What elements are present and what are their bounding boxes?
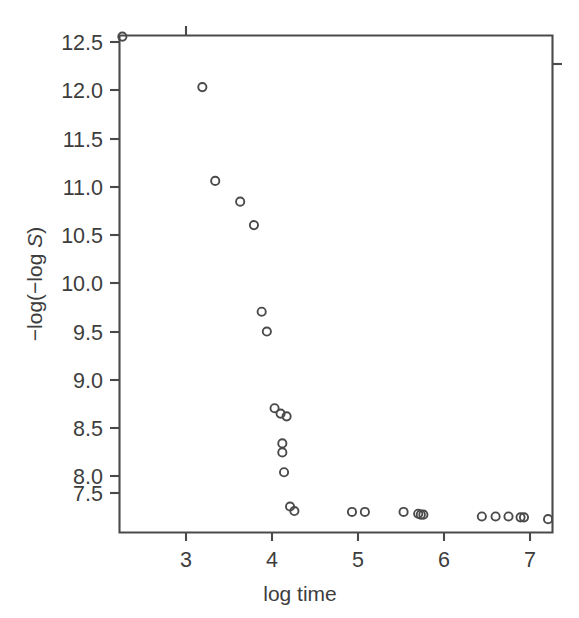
data-point bbox=[250, 221, 258, 229]
x-axis-tick-marks bbox=[186, 26, 562, 541]
y-tick-label: 9.0 bbox=[73, 369, 103, 393]
x-tick-label: 4 bbox=[266, 548, 278, 572]
y-tick-label: 11.0 bbox=[63, 176, 103, 200]
plot-canvas: 12.5 12.0 11.5 11.0 10.5 10.0 9.5 9.0 8.… bbox=[0, 0, 579, 618]
plot-frame bbox=[120, 36, 553, 533]
data-point bbox=[478, 512, 486, 520]
data-points-layer bbox=[118, 32, 552, 523]
y-tick-label: 10.5 bbox=[61, 224, 103, 248]
y-tick-label: 12.0 bbox=[61, 79, 103, 103]
data-point bbox=[544, 515, 552, 523]
data-point bbox=[278, 439, 286, 447]
y-axis-tick-labels: 12.5 12.0 11.5 11.0 10.5 10.0 9.5 9.0 8.… bbox=[61, 31, 103, 506]
data-point bbox=[492, 512, 500, 520]
y-axis-title: −log(−log S) bbox=[23, 227, 46, 341]
data-point bbox=[278, 448, 286, 456]
data-point bbox=[504, 512, 512, 520]
y-axis-title-suffix: ) bbox=[23, 227, 46, 234]
x-axis-title: log time bbox=[263, 582, 337, 605]
data-point bbox=[399, 508, 407, 516]
data-point bbox=[263, 327, 271, 335]
y-tick-label: 10.0 bbox=[61, 272, 103, 296]
scatter-plot-figure: 12.5 12.0 11.5 11.0 10.5 10.0 9.5 9.0 8.… bbox=[0, 0, 579, 618]
data-point bbox=[258, 308, 266, 316]
data-point bbox=[236, 198, 244, 206]
y-axis-title-italic-s: S bbox=[23, 234, 46, 248]
y-axis-title-prefix: −log(−log bbox=[23, 248, 46, 341]
y-axis-tick-marks bbox=[110, 42, 119, 493]
data-point bbox=[211, 177, 219, 185]
x-axis-tick-labels: 3 4 5 6 7 bbox=[180, 548, 536, 572]
x-tick-label: 5 bbox=[352, 548, 364, 572]
data-point bbox=[348, 508, 356, 516]
y-tick-label: 12.5 bbox=[61, 31, 103, 55]
x-tick-label: 6 bbox=[438, 548, 450, 572]
y-tick-label: 11.5 bbox=[63, 128, 103, 152]
data-point bbox=[361, 508, 369, 516]
x-tick-label: 3 bbox=[180, 548, 192, 572]
y-tick-label: 9.5 bbox=[73, 321, 103, 345]
data-point bbox=[198, 83, 206, 91]
x-tick-label: 7 bbox=[524, 548, 536, 572]
y-tick-label: 7.5 bbox=[73, 482, 103, 506]
y-tick-label: 8.5 bbox=[73, 417, 103, 441]
data-point bbox=[280, 468, 288, 476]
